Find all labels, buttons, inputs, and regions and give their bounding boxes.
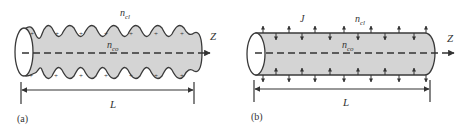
svg-text:+: +: [180, 30, 184, 38]
length-label: L: [342, 96, 349, 108]
z-axis-label: Z: [210, 30, 217, 42]
svg-text:+: +: [154, 30, 158, 38]
svg-text:+: +: [129, 30, 133, 38]
cladding-index-label: ncl: [120, 7, 130, 21]
svg-text:+: +: [29, 72, 33, 80]
svg-text:+: +: [30, 30, 34, 38]
z-axis-label: Z: [447, 32, 454, 44]
length-label: L: [109, 98, 116, 110]
fiber-end-face: [247, 33, 265, 75]
svg-text:+: +: [154, 72, 158, 80]
svg-text:+: +: [180, 72, 184, 80]
svg-text:+: +: [54, 72, 58, 80]
svg-text:+: +: [129, 72, 133, 80]
diagram-canvas: +++ ++++ +++ ++++ ncl nco Z L (a): [0, 0, 466, 131]
svg-text:+: +: [79, 72, 83, 80]
panel-b: J ncl nco Z L (b): [247, 13, 454, 123]
panel-caption-b: (b): [251, 111, 263, 123]
cladding-index-label: ncl: [355, 13, 365, 27]
current-density-label: J: [300, 13, 305, 24]
svg-text:+: +: [55, 30, 59, 38]
svg-text:+: +: [104, 72, 108, 80]
panel-a: +++ ++++ +++ ++++ ncl nco Z L (a): [15, 7, 217, 125]
svg-text:+: +: [104, 30, 108, 38]
svg-text:+: +: [79, 30, 83, 38]
panel-caption-a: (a): [17, 113, 28, 125]
